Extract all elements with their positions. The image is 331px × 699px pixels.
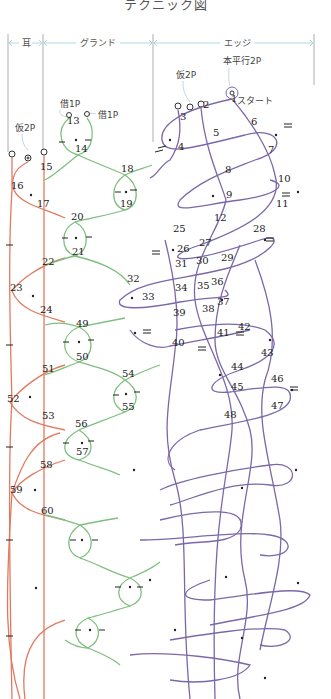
section-label-ground: グランド [80, 37, 116, 48]
pin-number-24: 24 [40, 304, 53, 315]
ground-threads [45, 118, 160, 665]
edge-threads [119, 99, 310, 699]
pin-number-40: 40 [172, 337, 185, 348]
pin-number-23: 23 [10, 282, 23, 293]
pin-number-53: 53 [42, 410, 55, 421]
pin-number-49: 49 [76, 318, 89, 329]
pin-number-42: 42 [238, 321, 251, 332]
pin-number-35: 35 [197, 280, 210, 291]
pin-number-11: 11 [276, 198, 289, 209]
tick-marks [6, 124, 298, 636]
section-header-arrows [9, 40, 313, 46]
pin-number-51: 51 [42, 363, 55, 374]
pin-number-18: 18 [121, 163, 134, 174]
pin-number-47: 47 [271, 400, 284, 411]
pin-number-44: 44 [231, 361, 244, 372]
pin-number-34: 34 [175, 282, 188, 293]
pin-number-36: 36 [211, 276, 224, 287]
pin-number-13: 13 [67, 115, 80, 126]
pin-number-57: 57 [76, 446, 89, 457]
annotation-borrow-1p-b: 借1P [98, 109, 119, 120]
pin-number-60: 60 [41, 505, 54, 516]
pin-number-6: 6 [251, 116, 257, 127]
annotation-honheiko-2p: 本平行2P [223, 55, 262, 66]
pin-number-26: 26 [177, 243, 190, 254]
pin-number-32: 32 [127, 273, 140, 284]
pin-number-50: 50 [76, 351, 89, 362]
pin-number-15: 15 [40, 161, 53, 172]
pin-number-4: 4 [178, 141, 184, 152]
ear-threads [7, 155, 65, 699]
pin-number-59: 59 [10, 484, 23, 495]
annotation-kari-2p-edge: 仮2P [176, 69, 197, 80]
pin-number-28: 28 [253, 223, 266, 234]
pin-number-43: 43 [261, 347, 274, 358]
pin-number-12: 12 [214, 212, 227, 223]
section-label-edge: エッジ [224, 38, 251, 48]
pin-number-19: 19 [120, 198, 133, 209]
pin-numbers: 1234567891011121314151617181920212223242… [7, 93, 291, 516]
pin-number-56: 56 [75, 418, 88, 429]
pin-number-10: 10 [278, 173, 291, 184]
pin-number-27: 27 [199, 237, 212, 248]
pin-number-41: 41 [217, 327, 230, 338]
pin-number-48: 48 [224, 409, 237, 420]
pin-number-21: 21 [72, 246, 85, 257]
pin-number-58: 58 [40, 459, 53, 470]
pin-number-3: 3 [180, 111, 186, 122]
pin-number-22: 22 [42, 256, 55, 267]
pin-number-25: 25 [173, 223, 186, 234]
pin-number-38: 38 [202, 303, 215, 314]
pin-number-31: 31 [175, 258, 188, 269]
pin-number-16: 16 [11, 180, 24, 191]
pin-number-14: 14 [75, 143, 88, 154]
annotation-start: スタート [237, 96, 273, 106]
lace-pricking-diagram: 耳 グランド エッジ 本平行2P 仮2P スタート 仮2P 借1P 借1P [0, 0, 331, 699]
pin-number-29: 29 [221, 252, 234, 263]
pin-number-30: 30 [196, 255, 209, 266]
pin-number-37: 37 [217, 296, 230, 307]
pin-number-46: 46 [271, 373, 284, 384]
pin-number-54: 54 [122, 368, 135, 379]
section-label-ear: 耳 [22, 38, 31, 48]
annotation-borrow-1p-a: 借1P [60, 98, 81, 109]
pin-number-45: 45 [231, 381, 244, 392]
leader-lines [22, 68, 230, 150]
pin-number-2: 2 [203, 99, 209, 110]
pin-number-5: 5 [213, 127, 219, 138]
pin-number-9: 9 [226, 189, 232, 200]
pin-number-17: 17 [37, 198, 50, 209]
pin-number-1: 1 [231, 93, 237, 104]
pin-number-20: 20 [71, 211, 84, 222]
pin-number-8: 8 [225, 164, 231, 175]
annotation-kari-2p-ear: 仮2P [15, 122, 36, 133]
pin-number-39: 39 [173, 307, 186, 318]
pin-number-7: 7 [268, 144, 274, 155]
pin-number-52: 52 [7, 393, 20, 404]
pin-number-33: 33 [142, 291, 155, 302]
pin-number-55: 55 [122, 401, 135, 412]
